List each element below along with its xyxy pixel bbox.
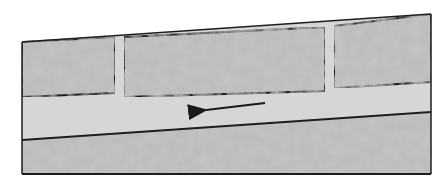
channel-diagram <box>0 0 445 186</box>
upper-block-3 <box>334 14 431 88</box>
diagram-svg <box>0 0 445 186</box>
upper-block-2 <box>124 27 325 97</box>
upper-block-1 <box>22 37 115 97</box>
